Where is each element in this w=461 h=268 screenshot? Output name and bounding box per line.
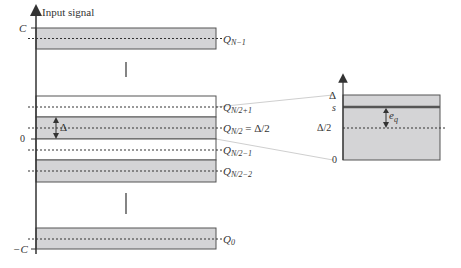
level-band-q-n-half-minus-1 (28, 139, 222, 160)
level-band-q-n-half-plus-1 (28, 96, 222, 117)
level-label-q-n-minus-1: QN−1 (223, 33, 246, 47)
inset-zoom: eq Δ s Δ/2 0 (317, 78, 446, 165)
level-label-q-n-half-minus-1: QN/2−1 (223, 144, 252, 158)
axis-title: Input signal (42, 6, 94, 18)
inset-label-s: s (332, 102, 336, 113)
level-label-q-n-half-plus-1: QN/2+1 (223, 101, 252, 115)
level-label-q-n-half-minus-2: QN/2−2 (223, 165, 252, 179)
axis-label-neg-c: −C (13, 243, 28, 255)
level-band-q-n-half-minus-2 (28, 160, 222, 182)
level-label-q-n-half: QN/2 = Δ/2 (223, 122, 270, 136)
inset-label-delta: Δ (329, 89, 336, 101)
step-label: Δ (60, 121, 67, 133)
quantization-diagram: Input signal C 0 −C Δ QN−1 QN/2+1 QN/2 =… (0, 0, 461, 268)
inset-label-half-delta: Δ/2 (317, 122, 331, 133)
inset-label-zero: 0 (332, 154, 337, 165)
axis-label-zero: 0 (20, 133, 25, 144)
level-band-q-n-minus-1 (28, 28, 222, 49)
axis-label-c: C (19, 22, 27, 34)
level-band-q-0 (28, 228, 222, 249)
level-label-q-0: Q0 (223, 233, 235, 247)
